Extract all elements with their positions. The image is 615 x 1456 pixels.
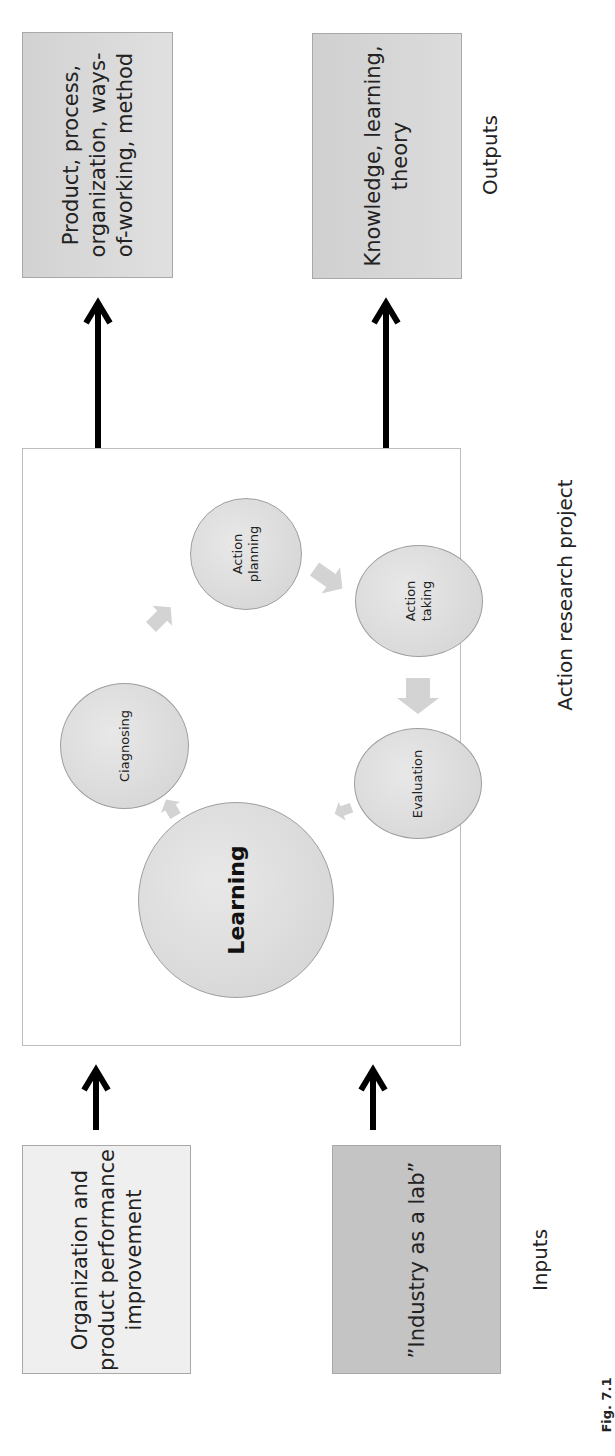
figure-caption: Fig. 7.1 [599,1377,614,1432]
inputs-label: Inputs [528,1229,552,1291]
cycle-arrow-icon [141,597,181,637]
caption-wrap: Fig. 7.1 [596,1360,615,1450]
stage-label: Action taking [403,581,435,622]
stage-diagnosing: Ciagnosing [60,683,189,809]
text-line: Action [230,526,246,582]
input-box-performance-improvement: Organization and product performance imp… [22,1145,191,1374]
stage-action-planning: Action planning [190,498,302,610]
stage-label: Action planning [230,526,262,582]
text-line: taking [419,581,435,622]
text-line: improvement [120,1149,147,1371]
input-box-industry-as-lab: ”Industry as a lab” [332,1145,501,1374]
cycle-arrow-icon [305,556,351,602]
project-label: Action research project [553,479,577,710]
stage-label: Evaluation [410,749,426,818]
stage-label: Ciagnosing [117,710,133,782]
cycle-arrow-icon [397,678,439,714]
stage-learning: Learning [138,802,334,998]
input-box-text: ”Industry as a lab” [403,1161,430,1358]
stage-evaluation: Evaluation [354,728,482,839]
input-box-text: Organization and product performance imp… [66,1149,147,1371]
inputs-label-wrap: Inputs [520,1220,560,1300]
learning-label: Learning [224,845,249,954]
text-line: product performance [93,1149,120,1371]
project-label-wrap: Action research project [545,470,585,720]
text-line: Organization and [66,1149,93,1371]
cycle-arrow-icon [331,798,355,823]
text-line: Action [403,581,419,622]
stage-action-taking: Action taking [355,545,483,657]
text-line: planning [246,526,262,582]
